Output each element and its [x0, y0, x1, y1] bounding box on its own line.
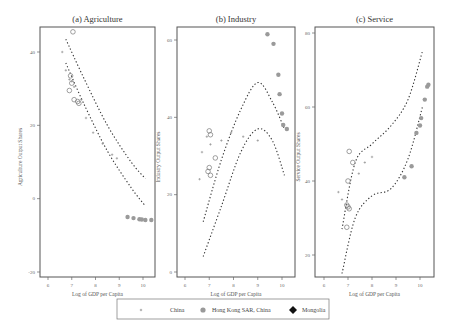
- panel-service: (c) Service67891020406080Log of GDP per …: [295, 14, 434, 297]
- legend-label: China: [170, 307, 185, 313]
- data-point-filled-circle: [276, 73, 280, 77]
- y-tick-label: -20: [28, 270, 35, 275]
- data-point-plus: [337, 191, 339, 193]
- y-tick-label: 60: [167, 38, 173, 43]
- x-tick-label: 8: [232, 283, 235, 288]
- fitted-band-line: [66, 63, 146, 206]
- data-point-plus: [209, 143, 211, 145]
- fitted-band-line: [342, 107, 422, 274]
- data-point-filled-circle: [418, 123, 422, 127]
- data-point-open-circle: [208, 173, 213, 178]
- legend-label: Mongolia: [302, 307, 326, 313]
- data-point-open-circle: [351, 160, 356, 165]
- data-point-plus: [341, 198, 343, 200]
- x-tick-label: 9: [257, 283, 260, 288]
- fitted-band-line: [203, 129, 284, 257]
- panel-industry: (b) Industry6789100204060Log of GDP per …: [155, 14, 295, 297]
- y-tick-label: 0: [33, 196, 36, 201]
- x-tick-label: 9: [118, 283, 121, 288]
- y-axis-label: Service Output Shares: [295, 132, 301, 181]
- legend: ChinaHong Kong SAR, ChinaMongolia: [117, 299, 329, 319]
- data-point-plus: [198, 178, 200, 180]
- data-point-open-circle: [71, 30, 76, 35]
- data-point-plus: [220, 139, 222, 141]
- data-point-plus: [116, 157, 118, 159]
- data-point-filled-circle: [271, 42, 275, 46]
- x-tick-label: 7: [347, 283, 350, 288]
- y-tick-label: 40: [30, 50, 36, 55]
- y-tick-label: 40: [167, 115, 173, 120]
- data-point-filled-circle: [426, 83, 430, 87]
- data-point-filled-circle: [125, 215, 129, 219]
- figure: (a) Agriculture678910-2002040Log of GDP …: [0, 0, 453, 336]
- data-point-filled-circle: [280, 111, 284, 115]
- fitted-band-line: [342, 52, 422, 230]
- data-point-open-circle: [213, 156, 218, 161]
- fitted-band-line: [66, 39, 146, 178]
- plot-frame: [40, 27, 155, 277]
- data-point-open-circle: [67, 88, 72, 93]
- x-tick-label: 7: [208, 283, 211, 288]
- data-point-plus: [65, 69, 67, 71]
- chart-canvas: (a) Agriculture678910-2002040Log of GDP …: [0, 0, 453, 336]
- data-point-filled-circle: [423, 97, 427, 101]
- x-axis-label: Log of GDP per Capita: [210, 291, 262, 297]
- data-point-plus: [371, 156, 373, 158]
- x-tick-label: 8: [371, 283, 374, 288]
- x-axis-label: Log of GDP per Capita: [72, 291, 124, 297]
- data-point-plus: [71, 80, 73, 82]
- data-point-open-circle: [68, 74, 73, 79]
- x-tick-label: 9: [395, 283, 398, 288]
- x-tick-label: 8: [94, 283, 97, 288]
- legend-label: Hong Kong SAR, China: [212, 307, 271, 313]
- y-tick-label: 20: [167, 192, 173, 197]
- data-point-open-circle: [346, 179, 351, 184]
- x-tick-label: 6: [47, 283, 50, 288]
- x-axis-label: Log of GDP per Capita: [349, 291, 401, 297]
- data-point-plus: [201, 151, 203, 153]
- panel-title: (a) Agriculture: [72, 14, 122, 24]
- y-axis-label: Agriculture Output Shares: [17, 128, 23, 186]
- data-point-plus: [73, 86, 75, 88]
- data-point-filled-circle: [285, 127, 289, 131]
- x-tick-label: 7: [71, 283, 74, 288]
- data-point-plus: [242, 135, 244, 137]
- panel-title: (c) Service: [356, 14, 393, 24]
- y-tick-label: 40: [305, 179, 311, 184]
- data-point-open-circle: [347, 149, 352, 154]
- fitted-band-line: [203, 82, 284, 221]
- data-point-filled-circle: [402, 175, 406, 179]
- data-point-filled-circle: [277, 92, 281, 96]
- data-point-filled-circle: [414, 131, 418, 135]
- data-point-plus: [111, 153, 113, 155]
- x-tick-label: 10: [418, 283, 424, 288]
- data-point-plus: [92, 131, 94, 133]
- x-tick-label: 10: [280, 283, 286, 288]
- data-point-filled-circle: [131, 216, 135, 220]
- data-point-open-circle: [345, 225, 350, 230]
- y-tick-label: 20: [305, 253, 311, 258]
- panel-title: (b) Industry: [216, 14, 257, 24]
- y-axis-label: Industry Output Shares: [155, 131, 161, 182]
- x-tick-label: 6: [184, 283, 187, 288]
- y-tick-label: 0: [170, 270, 173, 275]
- data-point-filled-circle: [143, 218, 147, 222]
- data-point-filled-circle: [265, 32, 269, 36]
- data-point-plus: [206, 135, 208, 137]
- panel-agriculture: (a) Agriculture678910-2002040Log of GDP …: [17, 14, 155, 297]
- y-tick-label: 80: [305, 31, 311, 36]
- data-point-filled-circle: [409, 164, 413, 168]
- data-point-filled-circle: [149, 218, 153, 222]
- data-point-plus: [61, 51, 63, 53]
- data-point-filled-circle: [281, 123, 285, 127]
- data-point-plus: [358, 172, 360, 174]
- y-tick-label: 60: [305, 105, 311, 110]
- plot-frame: [315, 27, 434, 277]
- x-tick-label: 10: [141, 283, 147, 288]
- y-tick-label: 20: [30, 123, 36, 128]
- filled-circle-icon: [200, 307, 205, 312]
- data-point-plus: [85, 117, 87, 119]
- data-point-plus: [364, 161, 366, 163]
- data-point-plus: [257, 139, 259, 141]
- data-point-plus: [68, 78, 70, 80]
